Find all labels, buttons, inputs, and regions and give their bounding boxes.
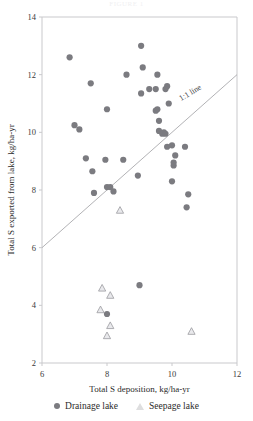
data-point-drainage	[171, 160, 177, 166]
x-tick-label: 10	[168, 369, 177, 379]
y-axis-title: Total S exported from lake, kg/ha-yr	[6, 124, 16, 255]
y-tick-label: 4	[32, 300, 37, 310]
legend-item-drainage: Drainage lake	[54, 401, 118, 411]
data-point-seepage	[188, 328, 195, 335]
legend-label-drainage: Drainage lake	[65, 401, 118, 411]
data-point-drainage	[104, 106, 110, 112]
legend-label-seepage: Seepage lake	[149, 401, 199, 411]
chart-legend: Drainage lake Seepage lake	[0, 398, 253, 414]
data-point-drainage	[156, 118, 162, 124]
data-point-drainage	[135, 172, 141, 178]
data-point-drainage	[123, 72, 129, 78]
data-point-drainage	[172, 152, 178, 158]
y-tick-label: 12	[28, 70, 37, 80]
data-point-drainage	[162, 86, 168, 92]
data-point-drainage	[76, 126, 82, 132]
plot-canvas: 24681012146810121:1 lineTotal S depositi…	[0, 0, 253, 421]
data-point-drainage	[164, 144, 170, 150]
data-point-drainage	[146, 86, 152, 92]
data-point-drainage	[169, 178, 175, 184]
plot-frame	[42, 17, 237, 363]
y-tick-label: 10	[28, 127, 37, 137]
open-triangle-icon	[136, 403, 144, 410]
x-tick-label: 8	[105, 369, 109, 379]
data-point-drainage	[67, 54, 73, 60]
data-point-seepage	[107, 292, 114, 299]
data-point-drainage	[83, 155, 89, 161]
data-point-drainage	[162, 131, 168, 137]
data-point-drainage	[153, 108, 159, 114]
data-point-seepage	[116, 207, 123, 214]
data-point-drainage	[110, 188, 116, 194]
y-tick-label: 8	[32, 185, 36, 195]
data-point-seepage	[107, 322, 114, 329]
data-point-drainage	[138, 90, 144, 96]
x-axis-title: Total S deposition, kg/ha-yr	[89, 384, 189, 394]
x-tick-label: 6	[40, 369, 44, 379]
y-tick-label: 6	[32, 243, 36, 253]
data-point-seepage	[97, 306, 104, 313]
data-point-seepage	[99, 284, 106, 291]
data-point-drainage	[153, 86, 159, 92]
data-point-drainage	[138, 43, 144, 49]
legend-item-seepage: Seepage lake	[136, 401, 199, 411]
y-tick-label: 14	[28, 12, 37, 22]
data-point-seepage	[103, 332, 110, 339]
scatter-plot-figure: 24681012146810121:1 lineTotal S depositi…	[0, 0, 253, 421]
data-point-drainage	[71, 122, 77, 128]
annotation-1to1-line: 1:1 line	[178, 82, 204, 102]
data-point-drainage	[104, 311, 110, 317]
data-point-drainage	[154, 72, 160, 78]
y-tick-label: 2	[32, 358, 36, 368]
data-point-drainage	[91, 190, 97, 196]
data-point-drainage	[88, 80, 94, 86]
data-point-drainage	[184, 204, 190, 210]
x-tick-label: 12	[233, 369, 242, 379]
data-point-drainage	[185, 191, 191, 197]
plot-axes	[42, 17, 237, 363]
data-point-drainage	[140, 64, 146, 70]
data-point-drainage	[182, 144, 188, 150]
data-point-drainage	[120, 157, 126, 163]
data-point-drainage	[166, 100, 172, 106]
data-point-drainage	[136, 282, 142, 288]
data-point-drainage	[89, 168, 95, 174]
reference-line-1to1	[42, 75, 237, 248]
data-point-drainage	[102, 157, 108, 163]
filled-circle-icon	[54, 403, 60, 409]
